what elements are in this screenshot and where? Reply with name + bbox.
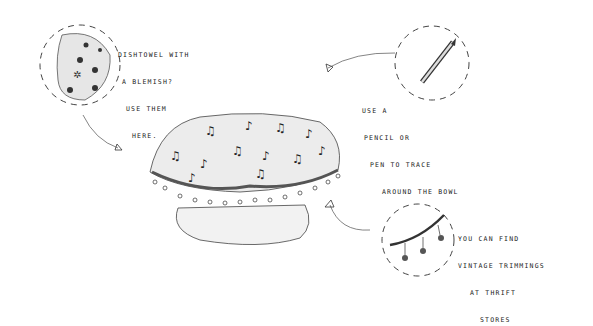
callout-dishtowel: DISHTOWEL WITH A BLEMISH? USE THEM HERE. (118, 33, 190, 150)
callout-line: YOU CAN FIND (458, 235, 545, 244)
callout-line: A BLEMISH? (118, 78, 190, 87)
svg-text:♪: ♪ (262, 149, 270, 163)
callout-line: DISHTOWEL WITH (118, 51, 190, 60)
trimming-detail-icon (382, 204, 454, 276)
svg-text:♫: ♫ (275, 121, 286, 135)
svg-text:♪: ♪ (200, 157, 208, 171)
svg-text:♪: ♪ (318, 144, 326, 158)
callout-line: USE A (362, 107, 459, 116)
dishtowel-detail-icon: ✲ (40, 25, 120, 105)
svg-text:♪: ♪ (188, 171, 196, 185)
svg-text:♪: ♪ (305, 127, 313, 141)
svg-text:♫: ♫ (292, 152, 303, 166)
svg-text:♫: ♫ (170, 149, 181, 163)
callout-line: PENCIL OR (362, 134, 459, 143)
callout-line: HERE. (118, 132, 190, 141)
svg-text:♪: ♪ (245, 119, 253, 133)
svg-text:♫: ♫ (232, 144, 243, 158)
callout-line: AT THRIFT (458, 289, 545, 298)
callout-line: USE THEM (118, 105, 190, 114)
callout-line: PEN TO TRACE (362, 161, 459, 170)
callout-trimmings: YOU CAN FIND VINTAGE TRIMMINGS AT THRIFT… (458, 217, 545, 326)
callout-line: STORES (458, 316, 545, 325)
callout-line: AROUND THE BOWL (362, 188, 459, 197)
svg-text:♫: ♫ (205, 124, 216, 138)
callout-pencil: USE A PENCIL OR PEN TO TRACE AROUND THE … (362, 89, 459, 206)
svg-text:♫: ♫ (255, 167, 266, 181)
arrow-icon (83, 115, 118, 148)
callout-line: VINTAGE TRIMMINGS (458, 262, 545, 271)
arrow-icon (328, 53, 395, 68)
svg-text:✲: ✲ (73, 69, 81, 80)
arrow-icon (330, 205, 370, 230)
